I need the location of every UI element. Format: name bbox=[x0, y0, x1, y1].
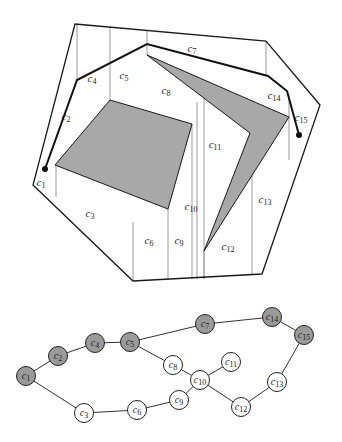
cell-label-c6: c6 bbox=[145, 234, 154, 248]
graph-node-label-c4: c4 bbox=[91, 337, 99, 350]
cell-label-c4: c4 bbox=[88, 72, 97, 86]
cell-label-c12: c12 bbox=[222, 240, 235, 254]
graph-node-c15: c15 bbox=[295, 326, 314, 345]
graph-edge-c10-c12 bbox=[200, 380, 241, 407]
graph-node-c14: c14 bbox=[263, 308, 282, 327]
graph-node-label-c1: c1 bbox=[22, 370, 30, 383]
cell-label-c9: c9 bbox=[175, 234, 184, 248]
graph-node-label-c7: c7 bbox=[201, 318, 209, 331]
graph-edge-c3-c6 bbox=[84, 410, 137, 413]
graph-node-label-c10: c10 bbox=[194, 374, 206, 387]
graph-edges bbox=[26, 317, 304, 413]
cell-label-c2: c2 bbox=[62, 110, 71, 124]
graph-node-label-c14: c14 bbox=[266, 311, 278, 324]
path-end-point bbox=[296, 132, 302, 138]
graph-node-c10: c10 bbox=[191, 371, 210, 390]
graph-nodes: c1c2c3c4c5c6c7c8c9c10c11c12c13c14c15 bbox=[17, 308, 314, 423]
cell-label-c15: c15 bbox=[295, 111, 308, 125]
graph-node-label-c3: c3 bbox=[80, 407, 88, 420]
graph-node-c9: c9 bbox=[170, 391, 189, 410]
graph-node-label-c11: c11 bbox=[225, 356, 237, 369]
graph-edge-c10-c11 bbox=[200, 362, 231, 380]
graph-node-c5: c5 bbox=[121, 333, 140, 352]
graph-node-c2: c2 bbox=[49, 347, 68, 366]
graph-edge-c5-c7 bbox=[130, 324, 205, 342]
graph-node-c6: c6 bbox=[128, 401, 147, 420]
graph-node-c4: c4 bbox=[86, 334, 105, 353]
graph-edge-c7-c14 bbox=[205, 317, 272, 324]
path-start-point bbox=[42, 166, 48, 172]
graph-node-label-c2: c2 bbox=[54, 350, 62, 363]
graph-edge-c9-c10 bbox=[179, 380, 200, 400]
graph-node-c7: c7 bbox=[196, 315, 215, 334]
graph-edge-c1-c2 bbox=[26, 356, 58, 376]
graph-node-label-c9: c9 bbox=[175, 394, 183, 407]
cell-label-c8: c8 bbox=[162, 84, 171, 98]
graph-node-c13: c13 bbox=[268, 373, 287, 392]
cell-label-c10: c10 bbox=[185, 200, 198, 214]
graph-edge-c8-c10 bbox=[173, 365, 200, 380]
graph-edge-c2-c4 bbox=[58, 343, 95, 356]
graph-node-c8: c8 bbox=[164, 356, 183, 375]
graph-node-label-c15: c15 bbox=[298, 329, 310, 342]
cell-label-c14: c14 bbox=[268, 89, 281, 103]
cell-label-c3: c3 bbox=[86, 207, 95, 221]
cell-decomposition-diagram: c1c2c3c4c5c6c7c8c9c10c11c12c13c14c15 bbox=[0, 0, 342, 300]
cell-label-c11: c11 bbox=[209, 138, 222, 152]
cell-label-c1: c1 bbox=[37, 176, 46, 190]
graph-node-c12: c12 bbox=[232, 398, 251, 417]
graph-node-label-c13: c13 bbox=[271, 376, 283, 389]
graph-edge-c5-c8 bbox=[130, 342, 173, 365]
cell-label-c13: c13 bbox=[259, 193, 272, 207]
graph-edge-c4-c5 bbox=[95, 342, 130, 343]
cell-label-c5: c5 bbox=[120, 69, 129, 83]
graph-node-label-c12: c12 bbox=[235, 401, 247, 414]
graph-edge-c6-c9 bbox=[137, 400, 179, 410]
graph-edge-c1-c3 bbox=[26, 376, 84, 413]
cell-label-c7: c7 bbox=[188, 42, 197, 56]
graph-node-label-c8: c8 bbox=[169, 359, 177, 372]
graph-node-label-c6: c6 bbox=[133, 404, 141, 417]
graph-node-label-c5: c5 bbox=[126, 336, 134, 349]
graph-edge-c12-c13 bbox=[241, 382, 277, 407]
graph-edge-c14-c15 bbox=[272, 317, 304, 335]
graph-node-c1: c1 bbox=[17, 367, 36, 386]
graph-node-c11: c11 bbox=[222, 353, 241, 372]
obstacle-quadrilateral bbox=[55, 100, 192, 209]
graph-node-c3: c3 bbox=[75, 404, 94, 423]
graph-edge-c13-c15 bbox=[277, 335, 304, 382]
